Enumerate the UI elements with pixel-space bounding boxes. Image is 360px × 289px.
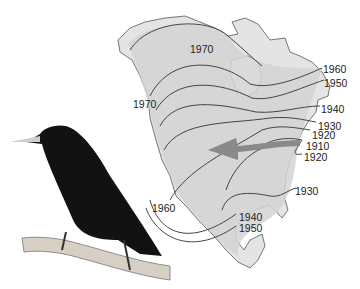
year-label: 1940 <box>321 104 344 115</box>
year-label: 1910 <box>306 141 329 152</box>
starling-bird <box>26 125 162 256</box>
year-label: 1960 <box>152 203 175 214</box>
year-label: 1920 <box>304 152 327 163</box>
year-label: 1970 <box>190 44 213 55</box>
year-label: 1920 <box>312 130 335 141</box>
year-label: 1970 <box>133 99 156 110</box>
year-label: 1950 <box>324 78 347 89</box>
year-label: 1950 <box>239 223 262 234</box>
year-label: 1940 <box>239 212 262 223</box>
year-label: 1930 <box>295 186 318 197</box>
year-label: 1960 <box>323 64 346 75</box>
figure: 1970 1960 1950 1970 1940 1930 1920 1910 … <box>0 0 360 289</box>
